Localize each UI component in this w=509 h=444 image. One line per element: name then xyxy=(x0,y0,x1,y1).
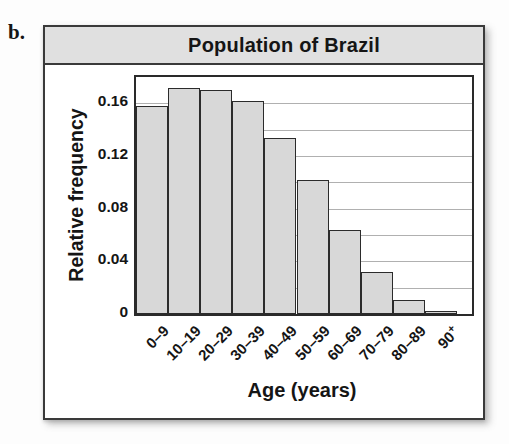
chart-title: Population of Brazil xyxy=(45,27,483,65)
x-tick-30–39: 30–39 xyxy=(227,322,269,364)
bar-30–39 xyxy=(232,101,264,314)
y-tick-0.04: 0.04 xyxy=(71,250,128,268)
x-tick-40–49: 40–49 xyxy=(259,322,301,364)
bar-50–59 xyxy=(297,180,329,314)
plot-area xyxy=(134,75,474,316)
y-tick-0.08: 0.08 xyxy=(71,198,128,216)
page: { "page": { "item_label": "b." }, "color… xyxy=(0,0,509,444)
x-tick-80–89: 80–89 xyxy=(387,322,429,364)
x-axis-title: Age (years) xyxy=(134,379,470,402)
bar-10–19 xyxy=(168,88,200,314)
bar-20–29 xyxy=(200,90,232,314)
y-tick-0.12: 0.12 xyxy=(71,145,128,163)
bar-90+ xyxy=(425,311,457,314)
y-tick-0: 0 xyxy=(71,303,128,321)
chart-panel: Population of Brazil Relative frequency … xyxy=(43,25,485,420)
y-tick-0.16: 0.16 xyxy=(71,92,128,110)
bar-0–9 xyxy=(136,106,168,314)
x-tick-20–29: 20–29 xyxy=(195,322,237,364)
bar-70–79 xyxy=(361,272,393,314)
bar-60–69 xyxy=(329,230,361,314)
item-label: b. xyxy=(8,20,25,45)
bar-80–89 xyxy=(393,300,425,314)
x-tick-10–19: 10–19 xyxy=(163,322,205,364)
x-tick-60–69: 60–69 xyxy=(323,322,365,364)
x-tick-50–59: 50–59 xyxy=(291,322,333,364)
bar-40–49 xyxy=(264,138,296,314)
x-tick-90+: 90+ xyxy=(433,322,463,352)
x-tick-70–79: 70–79 xyxy=(355,322,397,364)
